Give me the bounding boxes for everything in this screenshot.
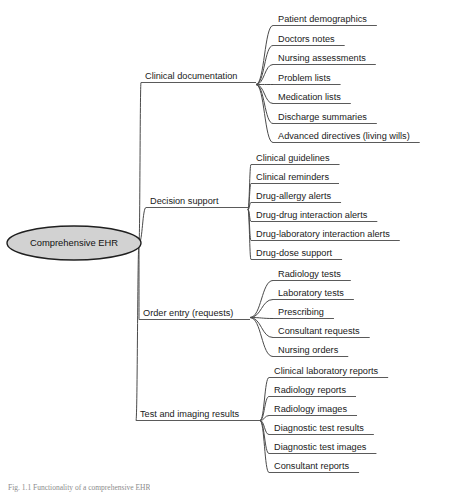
connector-root-to-branch-1 [139, 208, 146, 244]
branch-label-3[interactable]: Test and imaging results [140, 409, 239, 419]
leaf-label-0-1[interactable]: Doctors notes [278, 34, 335, 44]
leaf-label-1-5[interactable]: Drug-dose support [256, 248, 333, 258]
figure-caption: Fig. 1.1 Functionality of a comprehensiv… [8, 483, 150, 492]
leaf-label-1-1[interactable]: Clinical reminders [256, 172, 329, 182]
leaf-label-3-2[interactable]: Radiology images [274, 404, 347, 414]
leaf-label-2-0[interactable]: Radiology tests [278, 269, 341, 279]
connector-root-to-branch-3 [136, 243, 139, 421]
leaf-label-1-0[interactable]: Clinical guidelines [256, 153, 330, 163]
leaf-label-1-3[interactable]: Drug-drug interaction alerts [256, 210, 368, 220]
mindmap-canvas: Patient demographicsDoctors notesNursing… [0, 0, 451, 492]
leaf-label-2-1[interactable]: Laboratory tests [278, 288, 344, 298]
leaf-label-0-5[interactable]: Discharge summaries [278, 112, 367, 122]
connector-branch-2-leaf-1 [250, 300, 273, 318]
root-node-label: Comprehensive EHR [30, 237, 118, 248]
leaf-label-0-0[interactable]: Patient demographics [278, 14, 367, 24]
mindmap-svg: Patient demographicsDoctors notesNursing… [0, 0, 451, 492]
leaf-label-2-2[interactable]: Prescribing [278, 307, 324, 317]
leaf-label-3-4[interactable]: Diagnostic test images [274, 442, 367, 452]
connector-branch-2-leaf-3 [250, 318, 273, 338]
leaf-label-0-2[interactable]: Nursing assessments [278, 53, 366, 63]
connector-root-to-branch-0 [139, 83, 141, 244]
leaf-label-2-3[interactable]: Consultant requests [278, 326, 360, 336]
branch-label-layer: Clinical documentationDecision supportOr… [140, 71, 239, 419]
leaf-label-3-3[interactable]: Diagnostic test results [274, 423, 364, 433]
leaf-label-3-5[interactable]: Consultant reports [274, 461, 349, 471]
connector-branch-3-leaf-0 [260, 378, 269, 421]
leaf-label-3-0[interactable]: Clinical laboratory reports [274, 366, 379, 376]
leaf-label-1-4[interactable]: Drug-laboratory interaction alerts [256, 229, 390, 239]
leaf-label-0-4[interactable]: Medication lists [278, 92, 341, 102]
leaf-label-2-4[interactable]: Nursing orders [278, 345, 339, 355]
root-node-layer: Comprehensive EHR [7, 226, 141, 260]
connector-branch-2-leaf-0 [250, 281, 273, 318]
branch-label-1[interactable]: Decision support [150, 196, 219, 206]
leaf-label-layer: Patient demographicsDoctors notesNursing… [256, 14, 410, 471]
connector-branch-0-leaf-5 [256, 85, 273, 124]
branch-label-2[interactable]: Order entry (requests) [143, 308, 233, 318]
leaf-label-1-2[interactable]: Drug-allergy alerts [256, 191, 331, 201]
leaf-label-3-1[interactable]: Radiology reports [274, 385, 346, 395]
leaf-label-0-3[interactable]: Problem lists [278, 73, 331, 83]
branch-label-0[interactable]: Clinical documentation [145, 71, 237, 81]
leaf-label-0-6[interactable]: Advanced directives (living wills) [278, 131, 410, 141]
connector-layer [136, 26, 273, 473]
